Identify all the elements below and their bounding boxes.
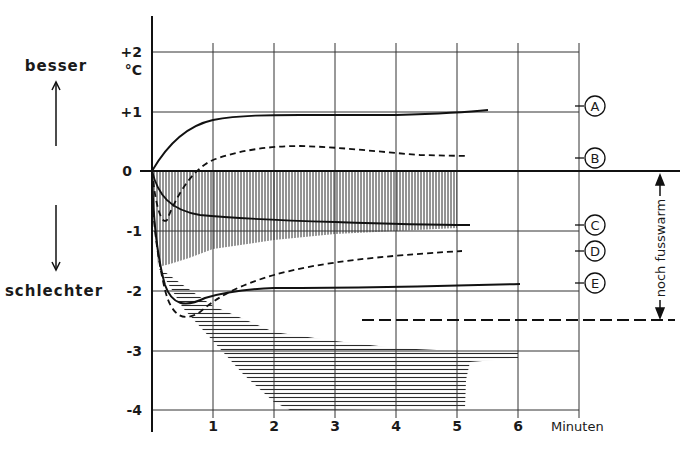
x-tick: 1 (208, 418, 218, 434)
down-arrow-icon (52, 205, 60, 270)
noch-fusswarm-label: noch fusswarm (653, 199, 668, 297)
y-tick: -1 (126, 223, 142, 239)
legend-label-c: C (590, 218, 599, 233)
x-tick: 3 (330, 418, 340, 434)
x-tick: 5 (452, 418, 462, 434)
y-tick-labels: +2 +1 0 -1 -2 -3 -4 °C (121, 44, 143, 418)
y-tick: 0 (122, 163, 132, 179)
x-tick-labels: 1 2 3 4 5 6 (208, 418, 523, 434)
y-tick: -2 (126, 283, 142, 299)
legend-label-d: D (590, 244, 600, 259)
y-tick: +2 (121, 44, 142, 60)
x-axis-label: Minuten (551, 419, 604, 434)
curve-a (152, 110, 488, 171)
legend-label-a: A (591, 99, 600, 114)
better-label: besser (25, 57, 87, 75)
y-tick: +1 (121, 104, 142, 120)
y-unit-label: °C (125, 62, 142, 78)
y-tick: -3 (126, 343, 142, 359)
legend-label-e: E (591, 276, 599, 291)
x-tick: 4 (391, 418, 401, 434)
up-arrow-icon (52, 82, 60, 146)
chart: +2 +1 0 -1 -2 -3 -4 °C 1 2 3 4 5 6 Minut… (0, 0, 686, 452)
legend-labels: A B C D E (590, 99, 600, 291)
x-tick: 6 (513, 418, 523, 434)
worse-label: schlechter (5, 282, 103, 300)
x-tick: 2 (269, 418, 279, 434)
legend-label-b: B (591, 151, 600, 166)
y-tick: -4 (126, 402, 142, 418)
vertical-hatch-region (152, 171, 457, 267)
